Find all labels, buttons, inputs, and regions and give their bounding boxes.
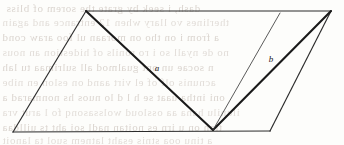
bottom-edge	[13, 131, 270, 132]
segment-b	[213, 11, 331, 130]
label-b: b	[269, 54, 274, 64]
label-a: a	[155, 63, 160, 73]
parallelogram-outline	[13, 11, 331, 132]
left-edge	[13, 11, 86, 132]
segment-labels: ab	[155, 54, 274, 73]
interior-segments	[86, 11, 331, 130]
right-edge	[270, 11, 331, 131]
segment-a	[86, 11, 213, 130]
geometry-figure: dash, i seek by grate the sorem of bliss…	[0, 0, 344, 145]
parallelogram-svg: ab	[0, 0, 344, 145]
